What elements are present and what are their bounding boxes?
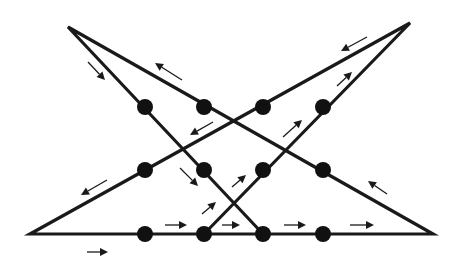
arrow-right-icon (222, 221, 240, 229)
arrow-up-right-icon (232, 175, 246, 187)
solution-path-line (30, 23, 433, 234)
dot-r2-c4 (315, 162, 331, 178)
puzzle-diagram (0, 0, 459, 265)
arrow-right-icon (87, 248, 108, 256)
arrow-right-icon (284, 221, 306, 229)
dot-r3-c3 (255, 226, 271, 242)
dot-r3-c4 (315, 226, 331, 242)
dot-r1-c1 (137, 99, 153, 115)
dot-r2-c1 (137, 162, 153, 178)
dot-r1-c3 (255, 99, 271, 115)
dot-r1-c2 (196, 99, 212, 115)
arrow-up-left-icon (368, 181, 387, 194)
dot-r3-c2 (196, 226, 212, 242)
dot-r3-c1 (137, 226, 153, 242)
arrow-down-right-icon (180, 168, 198, 186)
dot-r2-c3 (255, 162, 271, 178)
arrow-right-icon (165, 221, 187, 229)
dot-r2-c2 (196, 162, 212, 178)
direction-arrows (81, 37, 387, 256)
arrow-right-icon (350, 221, 374, 229)
arrow-up-right-icon (202, 202, 216, 214)
dot-r1-c4 (315, 99, 331, 115)
path-segments (30, 23, 433, 234)
